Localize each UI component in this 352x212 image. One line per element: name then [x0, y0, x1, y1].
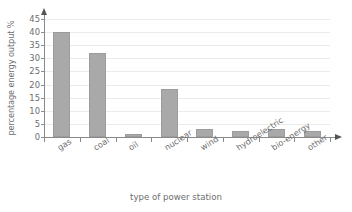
y-axis-tick-label: 40: [18, 28, 40, 36]
gridline: [44, 58, 330, 59]
bar-nuclear[interactable]: [161, 89, 178, 138]
y-axis-tick-label: 15: [18, 94, 40, 102]
x-axis-title: type of power station: [0, 192, 352, 202]
bar-coal[interactable]: [89, 53, 106, 137]
gridline: [44, 85, 330, 86]
y-axis-tick-label: 25: [18, 67, 40, 75]
y-axis-tick-label: 5: [18, 120, 40, 128]
gridline: [44, 98, 330, 99]
y-axis-tick-label: 0: [18, 133, 40, 141]
x-axis-tick-mark: [44, 138, 45, 142]
y-axis-tick-labels: 051015202530354045: [16, 19, 40, 137]
y-axis-tick-label: 45: [18, 15, 40, 23]
y-axis-line: [44, 14, 45, 138]
bar-gas[interactable]: [53, 32, 70, 137]
y-axis-tick-label: 10: [18, 107, 40, 115]
gridline: [44, 124, 330, 125]
gridline: [44, 71, 330, 72]
x-axis-tick-mark: [223, 138, 224, 142]
gridline: [44, 32, 330, 33]
x-axis-tick-mark: [80, 138, 81, 142]
x-axis-tick-mark: [330, 138, 331, 142]
x-axis-tick-mark: [151, 138, 152, 142]
y-axis-tick-label: 30: [18, 54, 40, 62]
plot-area: [44, 19, 330, 137]
bar-chart: percentage energy output % 0510152025303…: [0, 0, 352, 212]
gridline: [44, 19, 330, 20]
y-axis-arrow-icon: [41, 8, 47, 15]
y-axis-tick-label: 35: [18, 41, 40, 49]
x-axis-arrow-icon: [335, 134, 342, 140]
x-axis-tick-mark: [116, 138, 117, 142]
gridline: [44, 111, 330, 112]
y-axis-tick-label: 20: [18, 81, 40, 89]
gridline: [44, 45, 330, 46]
